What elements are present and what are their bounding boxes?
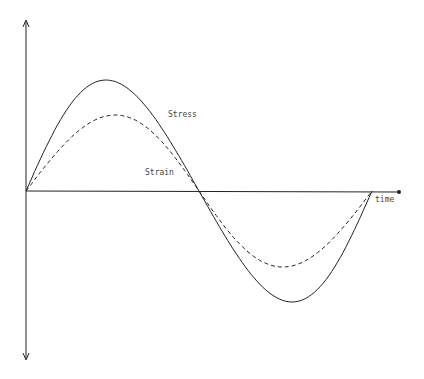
stress-strain-diagram: Stress Strain time [0, 0, 424, 379]
stress-label: Stress [168, 110, 197, 119]
diagram-canvas [0, 0, 424, 379]
time-axis-label: time [375, 195, 394, 204]
strain-label: Strain [145, 168, 174, 177]
x-axis [26, 191, 398, 192]
x-axis-arrow-icon [397, 190, 401, 194]
